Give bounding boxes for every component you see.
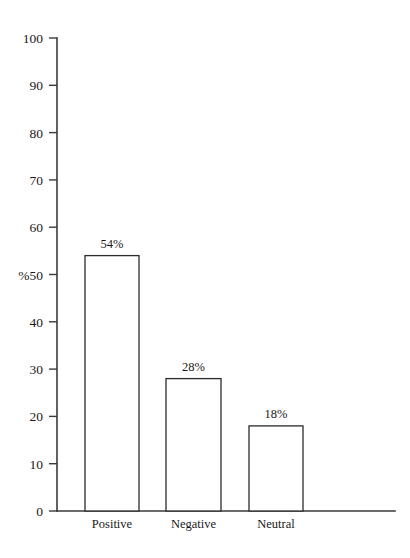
y-tick-label-30: 30 [30, 362, 44, 377]
y-axis-ticks [49, 38, 57, 511]
x-tick-label-neutral: Neutral [257, 517, 295, 531]
y-tick-label-90: 90 [30, 78, 44, 93]
x-axis-tick-labels: Positive Negative Neutral [92, 517, 295, 531]
y-tick-label-50: %50 [18, 268, 43, 283]
bar-positive[interactable] [85, 256, 139, 511]
bar-value-label-neutral: 18% [265, 407, 288, 421]
y-tick-label-60: 60 [30, 220, 44, 235]
bar-neutral[interactable] [249, 426, 303, 511]
bars-group [85, 256, 303, 511]
y-tick-label-100: 100 [23, 31, 44, 46]
y-tick-label-80: 80 [30, 126, 44, 141]
bar-value-label-negative: 28% [182, 360, 205, 374]
y-tick-label-70: 70 [30, 173, 44, 188]
y-tick-label-10: 10 [30, 457, 44, 472]
x-tick-label-positive: Positive [92, 517, 133, 531]
chart-canvas: 100 90 80 70 60 %50 40 30 20 10 0 54% 28… [0, 0, 410, 558]
y-tick-label-0: 0 [36, 504, 43, 519]
bar-negative[interactable] [166, 379, 221, 511]
y-tick-label-20: 20 [30, 409, 44, 424]
y-axis-tick-labels: 100 90 80 70 60 %50 40 30 20 10 0 [18, 31, 43, 519]
y-tick-label-40: 40 [30, 315, 44, 330]
bar-value-label-positive: 54% [101, 237, 124, 251]
bar-chart: 100 90 80 70 60 %50 40 30 20 10 0 54% 28… [0, 0, 410, 558]
x-tick-label-negative: Negative [171, 517, 217, 531]
